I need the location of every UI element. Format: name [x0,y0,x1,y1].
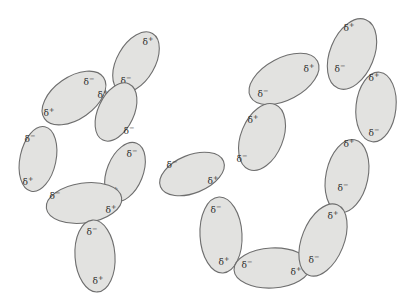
delta-positive-label-sign: + [213,173,218,181]
dipole-ellipse [14,123,63,195]
dipole-molecule: δ+δ− [14,123,63,195]
delta-positive-label-sign: + [349,136,354,144]
delta-positive-label-sign: + [349,20,354,28]
delta-positive-label-sign: + [253,112,258,120]
delta-negative-label-sign: − [263,86,268,94]
delta-positive-label-sign: + [224,254,229,262]
dipole-ellipse [153,144,230,205]
delta-negative-label-sign: − [55,188,60,196]
delta-negative-label-sign: − [129,123,134,131]
dipole-ellipse [229,97,294,178]
delta-negative-label-sign: − [374,125,379,133]
delta-negative-label-sign: − [172,157,177,165]
delta-negative-label-sign: − [126,73,131,81]
delta-positive-label-sign: + [111,202,116,210]
delta-negative-label-sign: − [247,257,252,265]
delta-negative-label-sign: − [216,202,221,210]
delta-positive-label-sign: + [333,208,338,216]
delta-positive-label-sign: + [28,174,33,182]
delta-positive-label-sign: + [103,87,108,95]
dipole-canvas: δ+δ−δ+δ−δ+δ−δ+δ−δ+δ−δ+δ−δ+δ−δ+δ−δ+δ−δ+δ−… [0,0,403,304]
dipole-molecule: δ+δ− [241,43,328,116]
delta-negative-label-sign: − [343,180,348,188]
dipole-ellipse [241,43,328,116]
delta-negative-label-sign: − [92,224,97,232]
dipole-arrangement-figure: δ+δ−δ+δ−δ+δ−δ+δ−δ+δ−δ+δ−δ+δ−δ+δ−δ+δ−δ+δ−… [0,0,403,304]
delta-negative-label-sign: − [314,252,319,260]
delta-negative-label-sign: − [132,146,137,154]
delta-negative-label-sign: − [242,151,247,159]
dipole-molecule: δ+δ− [73,219,118,294]
delta-positive-label-sign: + [309,61,314,69]
delta-negative-label-sign: − [89,74,94,82]
delta-negative-label: δ− [124,123,135,135]
delta-negative-label-sign: − [340,61,345,69]
delta-positive-label-sign: + [374,70,379,78]
delta-positive-label-sign: + [148,34,153,42]
dipole-molecule: δ+δ− [153,144,230,205]
delta-positive-label-sign: + [49,105,54,113]
delta-positive-label-sign: + [98,273,103,281]
delta-negative-label-sign: − [30,131,35,139]
dipole-molecule: δ+δ− [229,97,294,178]
